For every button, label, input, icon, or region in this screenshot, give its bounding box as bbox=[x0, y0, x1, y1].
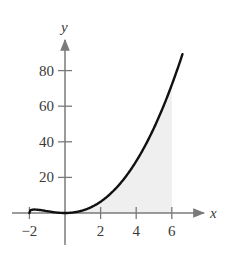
x-tick-label: 2 bbox=[97, 223, 105, 239]
y-tick-label: 20 bbox=[39, 169, 54, 185]
function-plot: −2246 20406080 x y bbox=[0, 0, 228, 260]
x-axis-label: x bbox=[209, 205, 217, 221]
shaded-area bbox=[65, 85, 172, 213]
x-tick-label: 4 bbox=[132, 223, 140, 239]
y-tick-label: 60 bbox=[39, 98, 54, 114]
x-tick-label: −2 bbox=[21, 223, 37, 239]
y-axis-label: y bbox=[59, 19, 68, 35]
y-tick-label: 40 bbox=[39, 134, 54, 150]
y-tick-label: 80 bbox=[39, 63, 54, 79]
x-tick-label: 6 bbox=[168, 223, 176, 239]
y-axis-ticks: 20406080 bbox=[39, 63, 72, 186]
